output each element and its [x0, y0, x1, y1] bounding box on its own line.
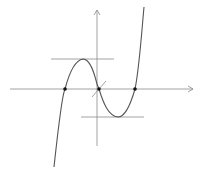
cubic-curve	[54, 7, 144, 167]
x-intercept-origin	[97, 87, 101, 91]
x-intercept-right	[133, 87, 137, 91]
axes	[10, 10, 193, 146]
x-intercept-left	[63, 87, 67, 91]
cubic-graph-diagram	[0, 0, 210, 177]
graph-svg	[0, 0, 210, 177]
